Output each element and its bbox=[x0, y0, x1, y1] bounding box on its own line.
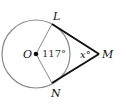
geometry-diagram: O L M N 117° x° bbox=[0, 0, 121, 107]
label-l: L bbox=[52, 10, 60, 23]
angle-x-label: x° bbox=[80, 49, 91, 60]
label-m: M bbox=[101, 48, 114, 61]
central-angle-label: 117° bbox=[42, 48, 66, 59]
label-o: O bbox=[23, 48, 32, 61]
center-point bbox=[34, 52, 39, 57]
label-n: N bbox=[50, 87, 61, 100]
